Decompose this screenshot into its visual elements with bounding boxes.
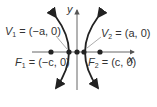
focus-f2-label: F2 = (c, 0) xyxy=(88,57,136,69)
hyperbola-diagram: y x V1 = (−a, 0) V2 = (a, 0) F1 = (−c, 0… xyxy=(0,0,157,107)
v2-leader-line xyxy=(87,37,101,48)
vertex-v2-label: V2 = (a, 0) xyxy=(101,28,150,40)
vertex-v1-point xyxy=(66,49,71,54)
focus-f1-point xyxy=(48,49,53,54)
origin-point xyxy=(74,49,79,54)
vertex-v1-label: V1 = (−a, 0) xyxy=(5,26,61,38)
y-axis-label: y xyxy=(67,4,73,15)
focus-f2-point xyxy=(97,49,102,54)
vertex-v2-point xyxy=(81,49,86,54)
hyperbola-right-branch xyxy=(85,17,98,88)
focus-f1-label: F1 = (−c, 0) xyxy=(15,57,70,69)
